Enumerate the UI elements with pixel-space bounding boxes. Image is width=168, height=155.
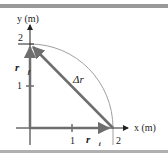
- vector-delta-r: [33, 47, 113, 128]
- y-axis-label: y (m): [17, 13, 39, 25]
- x-axis-label: x (m): [134, 122, 156, 134]
- bottom-frame-bar: [0, 150, 168, 153]
- x-tick-label-1: 1: [70, 135, 75, 146]
- displacement-diagram: y (m) x (m) 2 1 1 2 r⃗f r⃗i Δr⃗: [0, 0, 168, 155]
- y-tick-label-1: 1: [17, 80, 22, 91]
- y-tick-label-2: 2: [18, 32, 23, 43]
- delta-r-label: Δr⃗: [72, 73, 92, 85]
- r-initial-label: r⃗i: [86, 133, 101, 148]
- r-final-label: r⃗f: [15, 61, 31, 76]
- x-tick-label-2: 2: [116, 135, 121, 146]
